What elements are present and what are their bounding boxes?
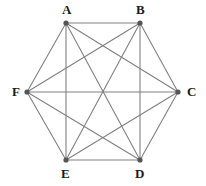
graph-vertex-c <box>175 89 180 94</box>
graph-edge-ef <box>27 92 66 160</box>
vertex-label-a: A <box>62 3 71 16</box>
graph-figure: ABCDEF <box>0 0 206 186</box>
graph-vertex-b <box>137 20 142 25</box>
vertex-label-c: C <box>187 85 196 98</box>
vertex-label-b: B <box>136 3 145 16</box>
graph-canvas <box>0 0 206 186</box>
graph-edge-bc <box>140 23 178 92</box>
edge-layer <box>27 23 178 160</box>
vertex-label-e: E <box>61 167 70 180</box>
graph-edge-fa <box>27 23 66 92</box>
graph-vertex-f <box>24 89 29 94</box>
graph-vertex-d <box>137 157 142 162</box>
graph-edge-cd <box>140 92 178 160</box>
vertex-label-f: F <box>12 85 20 98</box>
graph-vertex-a <box>63 20 68 25</box>
graph-vertex-e <box>63 157 68 162</box>
vertex-label-d: D <box>135 167 144 180</box>
